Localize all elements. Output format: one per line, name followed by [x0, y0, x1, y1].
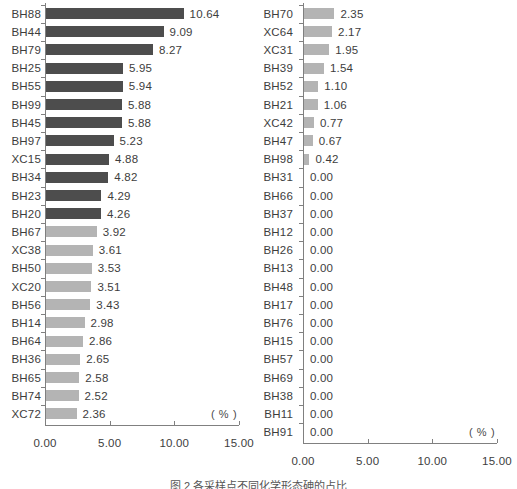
bar[interactable] [304, 44, 329, 55]
bar[interactable] [46, 408, 77, 419]
bar[interactable] [46, 336, 83, 347]
category-tick-mark [299, 205, 303, 206]
bar[interactable] [46, 263, 92, 274]
bar[interactable] [46, 372, 79, 383]
bar[interactable] [304, 135, 313, 146]
category-tick-label: BH47 [252, 132, 293, 150]
bar-value-label: 9.09 [170, 23, 193, 41]
bar-row[interactable]: BH362.65 [0, 350, 252, 368]
bar-row[interactable]: XC154.88 [0, 150, 252, 168]
bar[interactable] [46, 63, 123, 74]
category-tick-label: BH88 [0, 5, 41, 23]
bar-row[interactable]: BH310.00 [252, 168, 517, 186]
bar-row[interactable]: BH742.52 [0, 387, 252, 405]
category-tick-label: BH14 [0, 314, 41, 332]
bar-row[interactable]: BH503.53 [0, 259, 252, 277]
bar[interactable] [46, 317, 85, 328]
bar-row[interactable]: BH555.94 [0, 77, 252, 95]
bar-row[interactable]: BH204.26 [0, 205, 252, 223]
bar-row[interactable]: BH211.06 [252, 96, 517, 114]
bar[interactable] [304, 117, 314, 128]
bar-row[interactable]: BH980.42 [252, 150, 517, 168]
value-tick-mark [497, 439, 498, 443]
bar[interactable] [46, 245, 93, 256]
value-tick-mark [303, 439, 304, 443]
category-tick-label: BH45 [0, 114, 41, 132]
bar[interactable] [304, 154, 309, 165]
bar-row[interactable]: BH521.10 [252, 77, 517, 95]
bar[interactable] [46, 154, 109, 165]
bar[interactable] [46, 354, 80, 365]
bar-row[interactable]: BH652.58 [0, 369, 252, 387]
bar[interactable] [46, 44, 153, 55]
bar[interactable] [46, 190, 101, 201]
category-tick-label: BH67 [0, 223, 41, 241]
bar-row[interactable]: BH150.00 [252, 332, 517, 350]
bar-row[interactable]: XC311.95 [252, 41, 517, 59]
category-tick-label: BH26 [252, 241, 293, 259]
bar-value-label: 2.52 [85, 387, 108, 405]
bar-row[interactable]: BH660.00 [252, 187, 517, 205]
bar-value-label: 4.29 [107, 187, 130, 205]
bar-row[interactable]: XC383.61 [0, 241, 252, 259]
bar[interactable] [46, 172, 108, 183]
bar[interactable] [304, 99, 318, 110]
bar[interactable] [46, 8, 184, 19]
bar-row[interactable]: XC420.77 [252, 114, 517, 132]
category-tick-mark [41, 150, 45, 151]
bar-row[interactable]: BH470.67 [252, 132, 517, 150]
bar-row[interactable]: BH120.00 [252, 223, 517, 241]
bar[interactable] [46, 390, 79, 401]
bar[interactable] [304, 26, 332, 37]
bar-value-label: 0.00 [310, 223, 333, 241]
bar[interactable] [304, 8, 334, 19]
bar-row[interactable]: BH234.29 [0, 187, 252, 205]
bar-row[interactable]: BH480.00 [252, 278, 517, 296]
bar[interactable] [46, 226, 97, 237]
bar[interactable] [46, 99, 122, 110]
bar-row[interactable]: BH702.35 [252, 5, 517, 23]
bar-row[interactable]: XC642.17 [252, 23, 517, 41]
bar-row[interactable]: BH130.00 [252, 259, 517, 277]
bar-value-label: 3.61 [99, 241, 122, 259]
bar[interactable] [46, 81, 123, 92]
bar-row[interactable]: BH760.00 [252, 314, 517, 332]
bar-row[interactable]: BH142.98 [0, 314, 252, 332]
bar-row[interactable]: BH255.95 [0, 59, 252, 77]
category-tick-mark [41, 405, 45, 406]
bar[interactable] [304, 63, 324, 74]
bar-row[interactable]: BH798.27 [0, 41, 252, 59]
bar-row[interactable]: BH570.00 [252, 350, 517, 368]
bar-row[interactable]: BH170.00 [252, 296, 517, 314]
bar-row[interactable]: BH563.43 [0, 296, 252, 314]
bar[interactable] [304, 81, 318, 92]
bar-row[interactable]: BH673.92 [0, 223, 252, 241]
bar-row[interactable]: BH975.23 [0, 132, 252, 150]
bar-row[interactable]: BH690.00 [252, 369, 517, 387]
bar[interactable] [46, 26, 164, 37]
value-tick-label: 0.00 [22, 437, 68, 449]
bar-row[interactable]: BH344.82 [0, 168, 252, 186]
bar-row[interactable]: BH391.54 [252, 59, 517, 77]
category-tick-mark [299, 132, 303, 133]
bar[interactable] [46, 281, 91, 292]
bar-row[interactable]: BH995.88 [0, 96, 252, 114]
bar-row[interactable]: BH455.88 [0, 114, 252, 132]
bar-row[interactable]: BH8810.64 [0, 5, 252, 23]
bar-row[interactable]: XC203.51 [0, 278, 252, 296]
bar[interactable] [46, 135, 114, 146]
bar[interactable] [46, 117, 122, 128]
bar[interactable] [46, 208, 101, 219]
bar-row[interactable]: BH260.00 [252, 241, 517, 259]
bar[interactable] [46, 299, 90, 310]
category-tick-label: XC38 [0, 241, 41, 259]
bar-row[interactable]: BH449.09 [0, 23, 252, 41]
category-tick-label: BH55 [0, 77, 41, 95]
bar-row[interactable]: BH110.00 [252, 405, 517, 423]
bar-value-label: 8.27 [159, 41, 182, 59]
bar-row[interactable]: BH370.00 [252, 205, 517, 223]
bar-row[interactable]: BH380.00 [252, 387, 517, 405]
bar-row[interactable]: BH642.86 [0, 332, 252, 350]
category-tick-mark [41, 41, 45, 42]
bar-value-label: 0.00 [310, 187, 333, 205]
